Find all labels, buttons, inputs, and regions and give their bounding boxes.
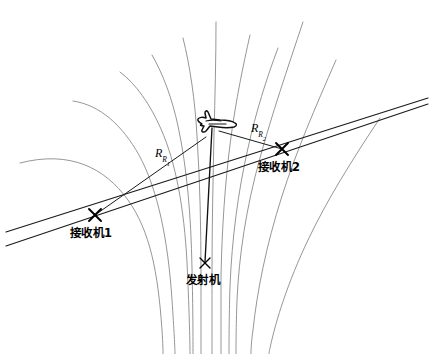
receiver-2-label: 接收机2 [258, 162, 300, 174]
contour-6 [212, 22, 216, 354]
diagram-canvas [0, 0, 435, 354]
transmitter-path-group [205, 128, 212, 262]
contour-10 [251, 60, 336, 354]
range-to-receiver-1-label: RR1 [155, 147, 170, 164]
contour-3 [120, 72, 190, 354]
range-to-receiver-1-line [95, 137, 206, 215]
radar-geometry-diagram: RR1 RR2 接收机1 接收机2 发射机 [0, 0, 435, 354]
range-1-index: 1 [167, 160, 170, 167]
target-aircraft-icon [198, 111, 237, 132]
contour-1 [20, 159, 163, 354]
iso-range-contour-group [20, 22, 380, 354]
transmitter-to-target-line [205, 128, 212, 262]
baseline-upper [6, 98, 428, 232]
transmitter-label: 发射机 [186, 275, 220, 287]
range-to-receiver-2-label: RR2 [251, 122, 266, 139]
range-2-index: 2 [263, 135, 266, 142]
contour-5 [183, 38, 201, 354]
contour-7 [221, 35, 250, 354]
receiver-1-label: 接收机1 [70, 228, 112, 240]
